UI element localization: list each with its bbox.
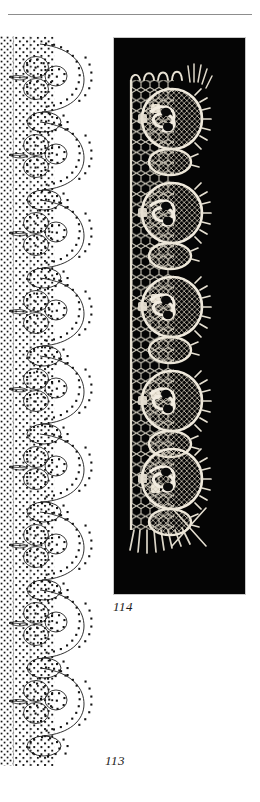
photo-lower-mask	[114, 558, 245, 594]
selvedge-dot-band	[0, 36, 13, 766]
pricking-diagram-figure	[0, 36, 104, 770]
header-rule	[8, 14, 252, 15]
page-canvas: 114 113	[0, 0, 260, 802]
lace-photograph-svg	[114, 38, 245, 594]
photograph-frame	[114, 38, 245, 594]
pricking-bottom-mask	[0, 766, 104, 770]
pricking-diagram-svg	[0, 36, 104, 770]
lace-photograph-figure	[114, 38, 245, 594]
figure-caption-114: 114	[113, 600, 133, 614]
figure-caption-113: 113	[105, 754, 125, 768]
